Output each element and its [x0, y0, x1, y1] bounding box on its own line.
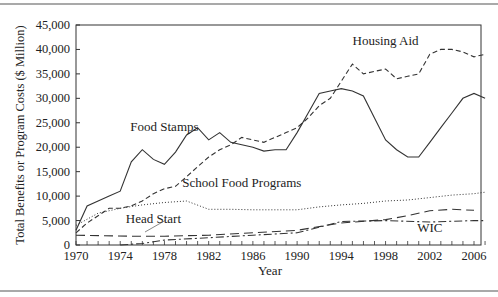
x-tick-label: 1970: [64, 249, 89, 263]
y-tick-label: 15,000: [36, 165, 70, 179]
y-tick-label: 45,000: [36, 18, 70, 32]
x-tick-label: 1986: [240, 249, 265, 263]
x-tick-label: 1982: [196, 249, 221, 263]
x-tick-label: 1994: [329, 249, 355, 263]
series-label-housing-aid: Housing Aid: [353, 33, 420, 48]
series-labels: Food StampsHousing AidSchool Food Progra…: [126, 33, 443, 236]
y-tick-label: 30,000: [36, 91, 70, 105]
series-label-school-food-programs: School Food Programs: [182, 175, 301, 190]
x-tick-label: 1990: [285, 249, 310, 263]
series-label-wic: WIC: [417, 220, 442, 235]
series-housing-aid: [76, 49, 485, 232]
line-chart: 05,00010,00015,00020,00025,00030,00035,0…: [0, 0, 498, 297]
series-label-food-stamps: Food Stamps: [130, 119, 198, 134]
x-tick-label: 1998: [373, 249, 398, 263]
y-axis-title: Total Benefits or Program Costs ($ Milli…: [13, 25, 27, 244]
x-tick-label: 1978: [152, 249, 177, 263]
y-tick-label: 20,000: [36, 140, 70, 154]
spacer: [287, 38, 300, 44]
series-food-stamps: [76, 89, 485, 231]
y-axis: 05,00010,00015,00020,00025,00030,00035,0…: [36, 18, 80, 252]
y-tick-label: 40,000: [36, 42, 70, 56]
y-tick-label: 5,000: [42, 214, 70, 228]
x-tick-label: 2002: [417, 249, 442, 263]
x-axis-title: Year: [258, 263, 283, 278]
x-tick-label: 2006: [462, 249, 487, 263]
y-tick-label: 35,000: [36, 67, 70, 81]
x-tick-label: 1974: [108, 249, 134, 263]
chart-canvas: 05,00010,00015,00020,00025,00030,00035,0…: [0, 0, 498, 297]
series-label-head-start: Head Start: [126, 211, 182, 226]
y-tick-label: 10,000: [36, 189, 70, 203]
y-tick-label: 25,000: [36, 116, 70, 130]
